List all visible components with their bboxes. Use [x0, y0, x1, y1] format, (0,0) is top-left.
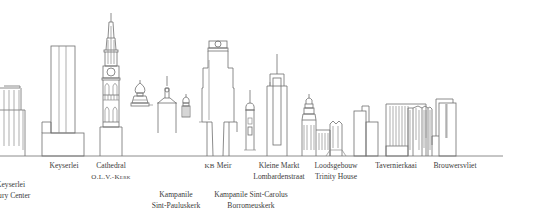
building-small-tower: [182, 94, 190, 117]
building-loodsgebouw: [302, 94, 346, 156]
label-line-1: Brouwersvliet: [433, 161, 476, 172]
label-kampanile-sint-pauluskerk: Kampanile Sint-Pauluskerk: [152, 190, 201, 211]
skyline-drawing: [0, 0, 533, 220]
label-kb-meir: KB Meir: [205, 161, 232, 172]
label-line-2: tury Center: [0, 191, 30, 202]
label-line-1: Kampanile Sint-Carolus: [214, 190, 288, 201]
label-line-1: Keyserlei: [49, 161, 78, 172]
label-keyserlei: Keyserlei: [49, 161, 78, 172]
label-kampanile-sint-carolus: Kampanile Sint-Carolus Borromeuskerk: [214, 190, 288, 211]
building-kleine-markt: [267, 54, 287, 156]
building-brouwersvliet: [432, 99, 456, 156]
building-tavernierkaai: [386, 104, 432, 156]
label-line-1: Keyserlei: [0, 180, 30, 191]
label-line-2: O.L.V.-Kerk: [91, 172, 130, 183]
label-line-1: Loodsgebouw: [314, 161, 357, 172]
label-tavernierkaai: Tavernierkaai: [375, 161, 417, 172]
label-line-1: Tavernierkaai: [375, 161, 417, 172]
building-sint-pauluskerk: [157, 76, 177, 133]
building-keyserlei: [42, 46, 84, 156]
label-cathedral: Cathedral O.L.V.-Kerk: [91, 161, 130, 182]
label-line-2: Lombardenstraat: [253, 172, 304, 183]
building-dome: [131, 80, 153, 106]
label-line-1: Cathedral: [91, 161, 130, 172]
label-line-1: Meir: [217, 161, 232, 170]
building-sint-carolus: [244, 90, 256, 150]
label-kleine-markt: Kleine Markt Lombardenstraat: [253, 161, 304, 182]
label-line-1: Kampanile: [152, 190, 201, 201]
building-century-center: [0, 86, 25, 156]
label-brouwersvliet: Brouwersvliet: [433, 161, 476, 172]
label-line-2: Borromeuskerk: [214, 201, 288, 212]
label-prefix: KB: [205, 162, 215, 170]
label-line-1: Kleine Markt: [253, 161, 304, 172]
label-line-2: Sint-Pauluskerk: [152, 201, 201, 212]
building-cathedral: [100, 13, 122, 156]
label-loodsgebouw: Loodsgebouw Trinity House: [314, 161, 357, 182]
label-line-2: Trinity House: [314, 172, 357, 183]
building-modern-block: [354, 106, 378, 156]
building-kb-meir: [199, 41, 237, 156]
label-keyserlei-century-center: Keyserlei tury Center: [0, 180, 30, 201]
